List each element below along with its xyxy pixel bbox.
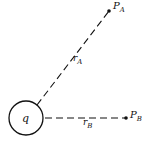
point-b-label: PB [129,109,142,123]
point-b-dot [124,116,128,120]
point-a-dot [107,9,111,13]
point-charge-diagram: q PA rA PB rB [0,0,151,147]
point-a-label: PA [112,0,125,14]
distance-b-label: rB [83,117,92,130]
distance-a-label: rA [73,53,82,66]
charge-label: q [22,112,29,125]
